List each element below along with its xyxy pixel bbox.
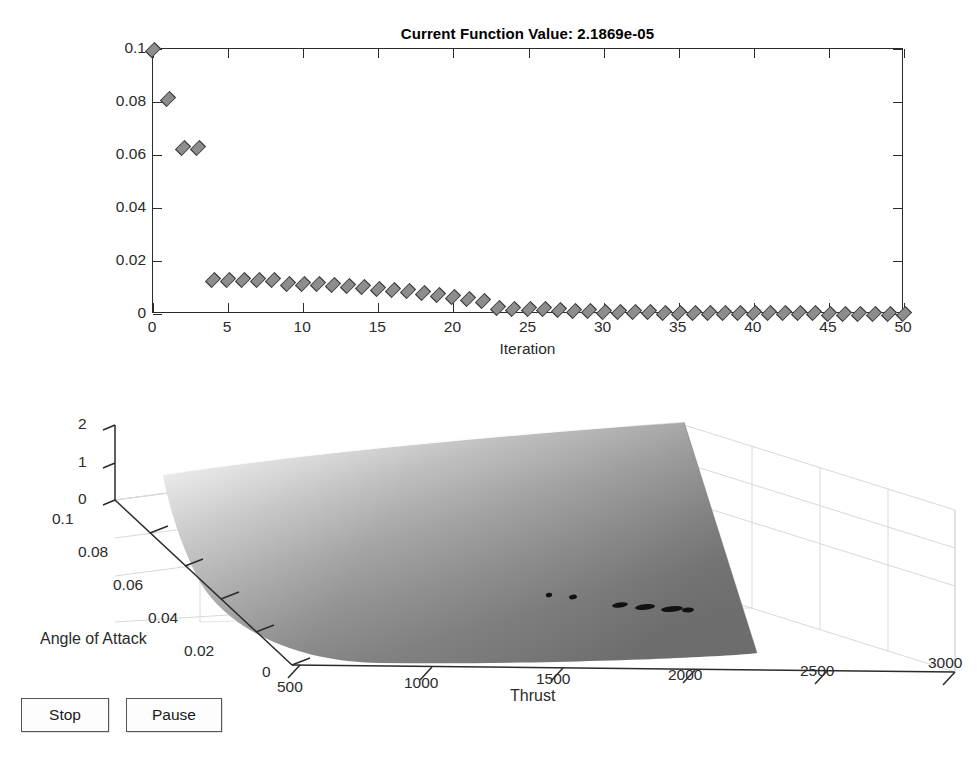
stop-button[interactable]: Stop [21, 698, 109, 732]
data-point-marker [220, 272, 236, 288]
data-point-marker [415, 285, 431, 301]
iteration-figure: Current Function Value: 2.1869e-05 00.02… [0, 0, 977, 370]
x-tick-label: 25 [519, 318, 536, 336]
data-point-marker [445, 289, 461, 305]
y-tick [153, 314, 162, 315]
data-point-marker [460, 291, 476, 307]
pause-button[interactable]: Pause [126, 698, 222, 732]
x-tick-label: 30 [594, 318, 611, 336]
x-tick-top [303, 49, 304, 58]
surface-aoa-tick-0p1: 0.1 [52, 510, 74, 528]
data-point-marker [400, 283, 416, 299]
x-tick-label: 45 [819, 318, 836, 336]
iteration-x-tick-labels: 05101520253035404550 [152, 318, 903, 342]
data-point-marker [205, 272, 221, 288]
y-tick-label: 0.1 [124, 39, 146, 57]
y-tick [153, 261, 162, 262]
data-point-marker [475, 293, 491, 309]
x-tick-label: 0 [148, 318, 157, 336]
data-point-marker [250, 272, 266, 288]
surface-thrust-tick-2500: 2500 [800, 662, 834, 680]
y-tick-label: 0.02 [116, 251, 146, 269]
data-point-marker [581, 303, 597, 319]
y-tick-label: 0.06 [116, 145, 146, 163]
surface-aoa-tick-0p06: 0.06 [113, 576, 143, 594]
data-point-marker [565, 302, 581, 318]
data-point-marker [505, 301, 521, 317]
y-tick [153, 155, 162, 156]
data-point-marker [310, 276, 326, 292]
data-point-marker [490, 300, 506, 316]
x-tick [378, 303, 379, 312]
x-tick-top [679, 49, 680, 58]
x-tick [153, 303, 154, 312]
surface-aoa-tick-0p04: 0.04 [148, 609, 178, 627]
y-tick-label: 0 [137, 304, 146, 322]
surface-z-ticks [103, 425, 115, 505]
surface-z-tick-1: 1 [78, 453, 87, 471]
surface-z-tick-2: 2 [78, 415, 87, 433]
y-tick-label: 0.04 [116, 198, 146, 216]
surface-aoa-tick-0: 0 [262, 663, 271, 681]
x-tick-label: 10 [294, 318, 311, 336]
y-tick-label: 0.08 [116, 92, 146, 110]
x-tick-label: 35 [669, 318, 686, 336]
x-tick [303, 303, 304, 312]
data-point-marker [235, 272, 251, 288]
x-tick-label: 20 [444, 318, 461, 336]
y-tick [153, 208, 162, 209]
data-point-marker [295, 276, 311, 292]
data-point-marker [160, 91, 176, 107]
iteration-plot-axes [152, 48, 903, 313]
data-point-marker [145, 42, 161, 58]
x-tick-label: 40 [744, 318, 761, 336]
iteration-x-axis-label: Iteration [152, 340, 903, 358]
control-button-bar: Stop Pause [0, 698, 977, 758]
surface-z-tick-0: 0 [78, 490, 87, 508]
data-point-marker [175, 140, 191, 156]
surface-thrust-tick-1500: 1500 [536, 670, 570, 688]
data-point-marker [535, 301, 551, 317]
data-point-marker [355, 279, 371, 295]
x-tick-label: 5 [223, 318, 232, 336]
data-point-marker [430, 287, 446, 303]
surface-thrust-tick-2000: 2000 [668, 666, 702, 684]
x-tick-top [529, 49, 530, 58]
x-tick-top [754, 49, 755, 58]
data-point-marker [520, 301, 536, 317]
surface-aoa-tick-0p02: 0.02 [184, 642, 214, 660]
x-tick-top [904, 49, 905, 58]
data-point-marker [385, 282, 401, 298]
data-point-marker [265, 272, 281, 288]
x-tick-label: 15 [369, 318, 386, 336]
surface-thrust-tick-1000: 1000 [404, 674, 438, 692]
x-tick-top [829, 49, 830, 58]
surface-thrust-tick-3000: 3000 [928, 654, 962, 672]
y-tick-right [893, 261, 902, 262]
y-tick-right [893, 208, 902, 209]
x-tick [453, 303, 454, 312]
x-tick-top [453, 49, 454, 58]
x-tick-top [378, 49, 379, 58]
surface-thrust-tick-500: 500 [277, 678, 303, 696]
x-tick-top [228, 49, 229, 58]
surface-aoa-tick-0p08: 0.08 [78, 543, 108, 561]
y-tick-right [893, 49, 902, 50]
iteration-y-tick-labels: 00.020.040.060.080.1 [92, 48, 146, 313]
data-point-marker [370, 281, 386, 297]
data-point-marker [550, 302, 566, 318]
y-tick-right [893, 155, 902, 156]
data-point-marker [280, 276, 296, 292]
iteration-plot-title: Current Function Value: 2.1869e-05 [152, 25, 903, 42]
x-tick [228, 303, 229, 312]
x-tick-top [604, 49, 605, 58]
y-tick-right [893, 102, 902, 103]
data-point-marker [325, 277, 341, 293]
data-point-marker [190, 140, 206, 156]
surface-figure: 2 1 0 0.1 0.08 0.06 0.04 0.02 0 500 1000… [0, 382, 977, 712]
surface-y-axis-label: Angle of Attack [40, 630, 147, 648]
data-point-marker [340, 278, 356, 294]
x-tick-label: 50 [894, 318, 911, 336]
